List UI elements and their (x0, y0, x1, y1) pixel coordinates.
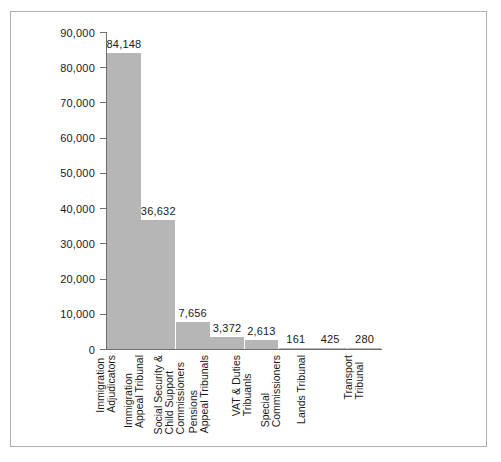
x-axis-category-label-text: Social Security &Child SupportCommission… (153, 355, 186, 434)
y-axis-tick-label: 70,000 (60, 97, 95, 109)
bar-value-label: 84,148 (106, 38, 141, 50)
y-axis-tick-mark (100, 243, 106, 244)
bar-rect[interactable] (279, 348, 313, 349)
y-axis-tick-label: 80,000 (60, 62, 95, 74)
y-axis-tick: 40,000 (100, 208, 106, 209)
bar-value-label: 7,656 (178, 307, 207, 319)
bar-item[interactable]: 36,632 (141, 32, 175, 349)
y-axis-tick-mark (100, 67, 106, 68)
y-axis-tick-mark (100, 173, 106, 174)
chart-frame: 010,00020,00030,00040,00050,00060,00070,… (10, 11, 487, 447)
x-axis-category-label-line: Tribuanls (242, 355, 253, 416)
bar-item[interactable]: 3,372 (210, 32, 244, 349)
y-axis-tick-mark (100, 102, 106, 103)
y-axis-tick-mark (100, 208, 106, 209)
y-axis-tick: 70,000 (100, 102, 106, 103)
y-axis-tick-label: 90,000 (60, 27, 95, 39)
y-axis-tick-label: 50,000 (60, 167, 95, 179)
bar-item[interactable]: 280 (348, 32, 382, 349)
y-axis-tick-mark (100, 314, 106, 315)
bar-rect[interactable] (313, 348, 347, 349)
x-axis-category-label-text: VAT & DutiesTribuanls (231, 355, 253, 416)
bar-series: 84,14836,6327,6563,3722,613161425280 (107, 32, 382, 349)
x-axis-category-label-line: Commissioners (271, 355, 282, 427)
x-axis-category-label-line: Tribunal (354, 355, 365, 400)
bar-rect[interactable] (348, 348, 382, 349)
y-axis-tick-mark (100, 279, 106, 280)
y-axis-tick-mark (100, 138, 106, 139)
x-axis-category-label-text: SpecialCommissioners (260, 355, 282, 427)
x-axis-category-label-line: Immigration (122, 355, 133, 428)
bar-rect[interactable] (107, 53, 141, 349)
y-axis-tick: 20,000 (100, 279, 106, 280)
bar-value-label: 3,372 (213, 322, 242, 334)
y-axis-tick-mark (100, 349, 106, 350)
y-axis-tick-label: 0 (89, 344, 95, 356)
y-axis-tick: 10,000 (100, 314, 106, 315)
y-axis-tick: 80,000 (100, 67, 106, 68)
x-axis-category-label-text: PensionsAppeal Tribunals (188, 355, 210, 433)
bar-item[interactable]: 425 (313, 32, 347, 349)
x-axis-category-label-line: Lands Tribunal (296, 355, 307, 424)
bar-rect[interactable] (245, 340, 279, 349)
x-axis-line (106, 349, 382, 350)
x-axis-category-label-line: Appeal Tribunal (133, 355, 144, 428)
x-axis-category-label-line: Adjudicators (106, 355, 117, 413)
y-axis-tick: 60,000 (100, 138, 106, 139)
bar-item[interactable]: 2,613 (245, 32, 279, 349)
x-axis-category-labels: ImmigrationAdjudicatorsImmigrationAppeal… (107, 353, 382, 445)
y-axis-tick-label: 30,000 (60, 238, 95, 250)
bar-rect[interactable] (141, 220, 175, 349)
x-axis-category-label-text: ImmigrationAppeal Tribunal (122, 355, 144, 428)
y-axis-tick: 30,000 (100, 243, 106, 244)
x-axis-category-label-text: TransportTribunal (343, 355, 365, 400)
x-axis-category-label: TransportTribunal (348, 353, 382, 445)
y-axis-tick-label: 10,000 (60, 308, 95, 320)
bar-rect[interactable] (176, 322, 210, 349)
y-axis-tick-label: 60,000 (60, 132, 95, 144)
y-axis-tick-label: 20,000 (60, 273, 95, 285)
bar-value-label: 161 (286, 333, 305, 345)
y-axis-tick: 0 (100, 349, 106, 350)
x-axis-category-label-text: Lands Tribunal (296, 355, 307, 424)
x-axis-category-label-line: Commissioners (175, 355, 186, 434)
y-axis-tick-label: 40,000 (60, 203, 95, 215)
bar-value-label: 36,632 (141, 205, 176, 217)
y-axis-tick: 50,000 (100, 173, 106, 174)
y-axis-tick: 90,000 (100, 32, 106, 33)
bar-rect[interactable] (210, 337, 244, 349)
bar-value-label: 2,613 (247, 325, 276, 337)
x-axis-category-label-text: ImmigrationAdjudicators (95, 355, 117, 413)
bar-item[interactable]: 161 (279, 32, 313, 349)
bar-value-label: 280 (355, 333, 374, 345)
bar-item[interactable]: 84,148 (107, 32, 141, 349)
bar-item[interactable]: 7,656 (176, 32, 210, 349)
bar-chart-plot-area: 010,00020,00030,00040,00050,00060,00070,… (11, 12, 488, 448)
y-axis-tick-mark (100, 32, 106, 33)
bar-value-label: 425 (321, 333, 340, 345)
x-axis-category-label-line: Appeal Tribunals (199, 355, 210, 433)
